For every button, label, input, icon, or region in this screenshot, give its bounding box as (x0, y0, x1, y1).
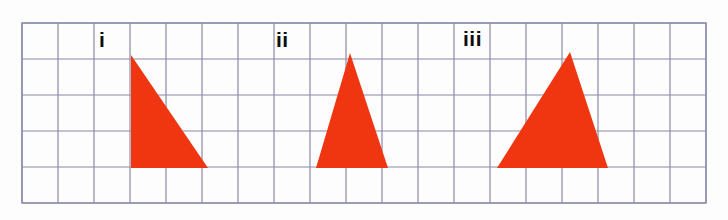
triangles-figure: i ii iii (0, 0, 728, 220)
triangle-ii (316, 53, 388, 168)
shape-label-iii: iii (463, 28, 482, 49)
grid-and-shapes-canvas (0, 0, 728, 220)
triangle-i (131, 55, 208, 168)
shape-label-ii: ii (276, 29, 289, 50)
shape-label-i: i (99, 29, 105, 50)
triangle-iii (497, 52, 608, 168)
